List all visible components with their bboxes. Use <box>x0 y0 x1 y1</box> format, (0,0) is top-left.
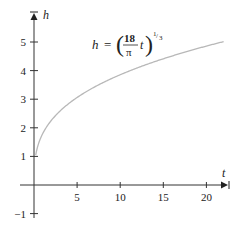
y-tick-label: 5 <box>21 36 27 48</box>
y-tick-label: 1 <box>21 150 27 162</box>
eq-lhs: h <box>92 37 99 52</box>
y-tick-label: −1 <box>14 208 26 220</box>
x-tick-label: 15 <box>158 191 170 203</box>
eq-variable: t <box>140 38 144 52</box>
eq-equals: = <box>104 37 111 52</box>
x-axis <box>20 181 229 189</box>
x-tick-label: 5 <box>74 191 80 203</box>
y-tick-label: 2 <box>21 122 27 134</box>
x-axis-label: t <box>222 166 226 180</box>
x-tick-label: 20 <box>201 191 213 203</box>
y-tick-label: 4 <box>21 65 27 77</box>
equation-annotation: h = ( 18 π t ) 1 / 3 <box>92 30 163 58</box>
y-axis-arrow-icon <box>31 13 38 20</box>
curve-h-of-t <box>36 42 224 155</box>
x-axis-arrow-icon <box>221 182 228 189</box>
eq-exponent-den: 3 <box>159 34 163 42</box>
chart: 5101520 −112345 h t h = ( 18 π t ) 1 / 3 <box>0 0 239 230</box>
eq-exponent-slash: / <box>156 32 158 40</box>
y-axis <box>30 12 38 218</box>
x-tick-label: 10 <box>115 191 127 203</box>
eq-right-paren: ) <box>145 31 153 57</box>
eq-left-paren: ( <box>116 31 124 57</box>
y-axis-label: h <box>43 8 49 22</box>
eq-numerator: 18 <box>124 32 136 44</box>
y-tick-label: 3 <box>21 93 27 105</box>
eq-denominator: π <box>126 46 132 58</box>
